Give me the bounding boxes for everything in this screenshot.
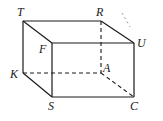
- edge-TF: [23, 21, 52, 43]
- vertex-label-U: U: [137, 37, 146, 49]
- edge-RU: [101, 21, 134, 43]
- vertex-label-R: R: [96, 6, 103, 18]
- stray-mark: [122, 13, 130, 27]
- vertex-label-C: C: [130, 100, 138, 112]
- vertex-label-S: S: [48, 100, 54, 112]
- vertex-label-A: A: [103, 62, 110, 74]
- vertex-label-F: F: [39, 43, 46, 55]
- edge-KS: [23, 73, 52, 97]
- vertex-label-K: K: [10, 68, 18, 80]
- cuboid-diagram: [0, 0, 163, 121]
- edge-AC-hidden: [101, 73, 134, 97]
- vertex-label-T: T: [17, 6, 24, 18]
